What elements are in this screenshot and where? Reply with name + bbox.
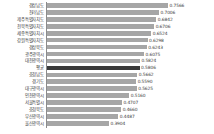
bar xyxy=(46,31,151,36)
category-label: 서울특별시 xyxy=(0,100,46,105)
bar-track: 0.3904 xyxy=(46,120,214,127)
category-label: 인천광역시 xyxy=(0,93,46,98)
bar xyxy=(46,17,156,22)
category-label: 부산광역시 xyxy=(0,114,46,119)
bar xyxy=(46,10,159,15)
bar-track: 0.5160 xyxy=(46,92,214,99)
bar xyxy=(46,73,137,78)
bar-row: 전북특별자치도0.6706 xyxy=(0,23,214,30)
bar-track: 0.7566 xyxy=(46,2,214,9)
value-label: 0.4487 xyxy=(120,114,135,119)
bar-row: 평균0.5806 xyxy=(0,64,214,71)
bar-row: 강원특별자치도0.6298 xyxy=(0,37,214,44)
value-axis-line xyxy=(46,2,47,128)
bar-chart: 경상남도0.7566전라남도0.7006제주특별자치도0.6842전북특별자치도… xyxy=(0,0,214,134)
category-label: 세종특별자치시 xyxy=(0,31,46,36)
category-label: 경기도 xyxy=(0,79,46,84)
bar-track: 0.6706 xyxy=(46,23,214,30)
bar-row: 충청남도0.5662 xyxy=(0,71,214,78)
bar-track: 0.5806 xyxy=(46,64,214,71)
value-label: 0.6298 xyxy=(149,38,164,43)
bar-row: 제주특별자치도0.6842 xyxy=(0,16,214,23)
category-label: 제주특별자치도 xyxy=(0,17,46,22)
category-label: 대구광역시 xyxy=(0,86,46,91)
bar xyxy=(46,38,148,43)
bar-row: 대구광역시0.5625 xyxy=(0,85,214,92)
value-label: 0.5625 xyxy=(138,86,153,91)
bar-track: 0.4660 xyxy=(46,106,214,113)
bar xyxy=(46,100,122,105)
bar xyxy=(46,3,168,8)
bar-row: 전라남도0.7006 xyxy=(0,9,214,16)
category-label: 대전광역시 xyxy=(0,58,46,63)
bar-row: 경기도0.5590 xyxy=(0,78,214,85)
bar-row: 세종특별자치시0.6524 xyxy=(0,30,214,37)
bar-track: 0.4707 xyxy=(46,99,214,106)
bar-row: 서울특별시0.4707 xyxy=(0,99,214,106)
category-label: 평균 xyxy=(0,65,46,70)
category-label: 광주광역시 xyxy=(0,52,46,57)
bar-row: 광주광역시0.6075 xyxy=(0,51,214,58)
bar-row: 충청북도0.4660 xyxy=(0,106,214,113)
bar-highlight xyxy=(46,66,140,71)
value-label: 0.6075 xyxy=(145,52,160,57)
value-label: 0.5824 xyxy=(141,58,156,63)
category-label: 강원특별자치도 xyxy=(0,38,46,43)
bar-row: 경상북도0.6243 xyxy=(0,44,214,51)
value-label: 0.5160 xyxy=(131,93,146,98)
chart-plot-area: 경상남도0.7566전라남도0.7006제주특별자치도0.6842전북특별자치도… xyxy=(0,2,214,130)
bar-track: 0.5662 xyxy=(46,71,214,78)
bar-track: 0.6243 xyxy=(46,44,214,51)
bar-track: 0.5824 xyxy=(46,58,214,65)
bar-track: 0.6524 xyxy=(46,30,214,37)
value-label: 0.6706 xyxy=(156,24,171,29)
value-label: 0.5590 xyxy=(138,79,153,84)
bar-track: 0.7006 xyxy=(46,9,214,16)
category-label: 전라남도 xyxy=(0,10,46,15)
bar-row: 울산광역시0.3904 xyxy=(0,120,214,127)
value-label: 0.4707 xyxy=(123,100,138,105)
category-label: 울산광역시 xyxy=(0,121,46,126)
bar-track: 0.6075 xyxy=(46,51,214,58)
bar xyxy=(46,121,109,126)
value-label: 0.7006 xyxy=(160,10,175,15)
bar-row: 경상남도0.7566 xyxy=(0,2,214,9)
bar xyxy=(46,79,136,84)
value-label: 0.7566 xyxy=(170,3,185,8)
bar-track: 0.5625 xyxy=(46,85,214,92)
value-label: 0.6524 xyxy=(153,31,168,36)
category-label: 충청남도 xyxy=(0,72,46,77)
bar-track: 0.5590 xyxy=(46,78,214,85)
bar xyxy=(46,52,144,57)
value-label: 0.5806 xyxy=(141,65,156,70)
bar-row: 대전광역시0.5824 xyxy=(0,58,214,65)
value-label: 0.6842 xyxy=(158,17,173,22)
bar-track: 0.4487 xyxy=(46,113,214,120)
bar xyxy=(46,114,118,119)
bar xyxy=(46,86,137,91)
bar-track: 0.6842 xyxy=(46,16,214,23)
bar xyxy=(46,107,121,112)
category-label: 충청북도 xyxy=(0,107,46,112)
value-label: 0.6243 xyxy=(148,45,163,50)
bar-row: 부산광역시0.4487 xyxy=(0,113,214,120)
bar-row: 인천광역시0.5160 xyxy=(0,92,214,99)
value-label: 0.4660 xyxy=(123,107,138,112)
category-label: 경상남도 xyxy=(0,3,46,8)
category-label: 경상북도 xyxy=(0,45,46,50)
value-label: 0.3904 xyxy=(110,121,125,126)
value-label: 0.5662 xyxy=(139,72,154,77)
bar xyxy=(46,59,140,64)
bar-track: 0.6298 xyxy=(46,37,214,44)
category-label: 전북특별자치도 xyxy=(0,24,46,29)
bar xyxy=(46,45,147,50)
bar xyxy=(46,93,129,98)
bar xyxy=(46,24,154,29)
